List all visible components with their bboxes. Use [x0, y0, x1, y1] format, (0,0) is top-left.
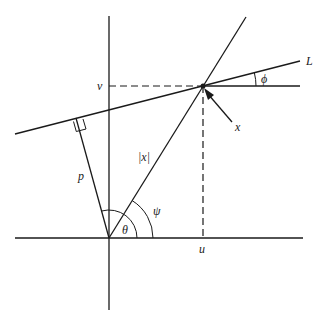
label-v: v	[97, 79, 103, 93]
label-u: u	[199, 242, 205, 256]
label-magnitude: |x|	[138, 150, 150, 164]
label-p: p	[77, 169, 84, 183]
label-psi: ψ	[153, 204, 161, 218]
diagram-canvas: L x |x| p u v θ ψ ϕ	[0, 0, 321, 325]
angle-psi-arc	[132, 201, 153, 238]
point-x-dot	[201, 84, 206, 89]
position-vector-ray	[109, 17, 246, 238]
pointer-arrow-shaft	[208, 94, 232, 122]
angle-theta-arc	[102, 210, 137, 238]
pointer-arrow-head	[204, 88, 214, 100]
label-L: L	[305, 54, 313, 68]
label-x: x	[234, 120, 241, 134]
label-theta: θ	[122, 223, 128, 237]
label-phi: ϕ	[261, 72, 267, 86]
angle-phi-arc	[254, 73, 256, 86]
line-L	[15, 61, 300, 134]
